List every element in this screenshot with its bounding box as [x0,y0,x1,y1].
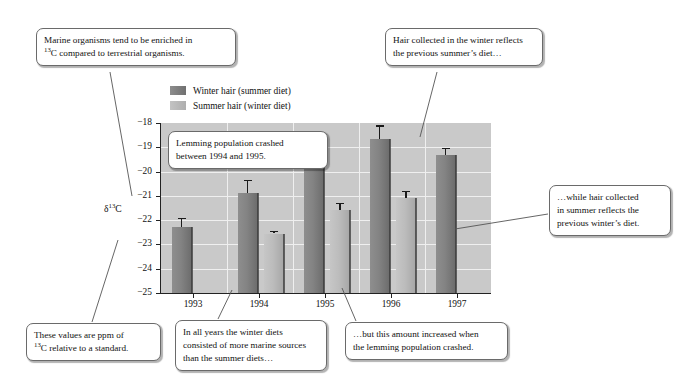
error-cap-1994-winter [244,180,252,181]
x-tick-label-1994: 1994 [234,299,284,309]
callout-line: the previous summer’s diet… [393,48,502,58]
callout-winter-more-marine: In all years the winter diets consisted … [175,320,327,371]
error-cap-1996-summer [402,191,410,192]
y-tick-label: −23 [137,238,152,248]
callout-summer-hair-reflects: …while hair collected in summer reflects… [549,185,671,236]
x-tick-mark [391,294,392,298]
x-tick-label-1993: 1993 [168,299,218,309]
callout-line: Hair collected in the winter reflects [393,35,523,45]
callout-line: in summer reflects the [557,205,639,215]
callout-line: Lemming population crashed [176,138,284,148]
callout-line: C compared to terrestrial organisms. [51,48,185,58]
error-cap-1993-winter [178,218,186,219]
gridline-vertical [425,123,426,293]
callout-winter-hair-reflects: Hair collected in the winter reflects th… [385,28,543,66]
callout-amount-increased: …but this amount increased when the lemm… [345,322,508,360]
y-tick-label: −18 [137,117,152,127]
bar-1996-summer [396,198,416,293]
error-bar-1994-winter [247,180,248,193]
error-cap-1997-winter [442,148,450,149]
y-axis-label-element: C [115,203,121,214]
figure-root: Marine organisms tend to be enriched in … [0,0,700,388]
y-tick-label: −21 [137,190,152,200]
callout-line: the lemming population crashed. [353,342,473,352]
callout-line: Marine organisms tend to be enriched in [44,35,192,45]
bar-1997-winter [436,155,456,293]
x-tick-label-1995: 1995 [300,299,350,309]
legend-label-winter: Winter hair (summer diet) [193,86,291,96]
error-cap-1996-winter [376,125,384,126]
legend-swatch-summer-icon [170,101,186,110]
legend-item-winter: Winter hair (summer diet) [170,84,291,97]
legend-label-summer: Summer hair (winter diet) [193,101,291,111]
callout-ppm-standard: These values are ppm of 13C relative to … [26,323,161,361]
x-tick-label-1997: 1997 [432,299,482,309]
error-bar-1993-winter [181,218,182,227]
error-bar-1996-winter [379,125,380,138]
callout-line: In all years the winter diets [183,327,283,337]
callout-line: consisted of more marine sources [183,340,306,350]
bar-1995-winter [304,149,324,294]
callout-lemming-crash: Lemming population crashed between 1994 … [168,131,328,169]
y-tick-label: −25 [137,287,152,297]
page-footer-strip [0,378,700,388]
callout-marine-enrichment: Marine organisms tend to be enriched in … [36,28,236,66]
y-tick-label: −19 [137,141,152,151]
y-tick-label: −20 [137,166,152,176]
y-tick-label: −22 [137,214,152,224]
callout-line: …but this amount increased when [353,329,479,339]
callout-line: than the summer diets… [183,353,273,363]
bar-1993-winter [172,227,192,293]
callout-line: between 1994 and 1995. [176,151,266,161]
x-tick-mark [193,294,194,298]
callout-line: These values are ppm of [34,330,124,340]
y-tick-label: −24 [137,263,152,273]
bar-1994-winter [238,193,258,293]
callout-line: …while hair collected [557,192,639,202]
callout-line: C relative to a standard. [41,343,129,353]
error-cap-1994-summer [270,231,278,232]
x-tick-mark [457,294,458,298]
bar-1996-winter [370,139,390,293]
callout-superscript: 13 [44,46,51,53]
callout-line: previous winter’s diet. [557,218,639,228]
bar-1994-summer [264,234,284,294]
y-axis-label: δ13C [104,203,122,214]
callout-superscript: 13 [34,341,41,348]
legend-swatch-winter-icon [170,86,186,95]
x-tick-mark [325,294,326,298]
x-tick-label-1996: 1996 [366,299,416,309]
bar-1995-summer [330,210,350,293]
x-tick-mark [259,294,260,298]
error-cap-1995-summer [336,203,344,204]
legend-item-summer: Summer hair (winter diet) [170,99,291,112]
chart-legend: Winter hair (summer diet) Summer hair (w… [170,84,291,114]
gridline-vertical [359,123,360,293]
